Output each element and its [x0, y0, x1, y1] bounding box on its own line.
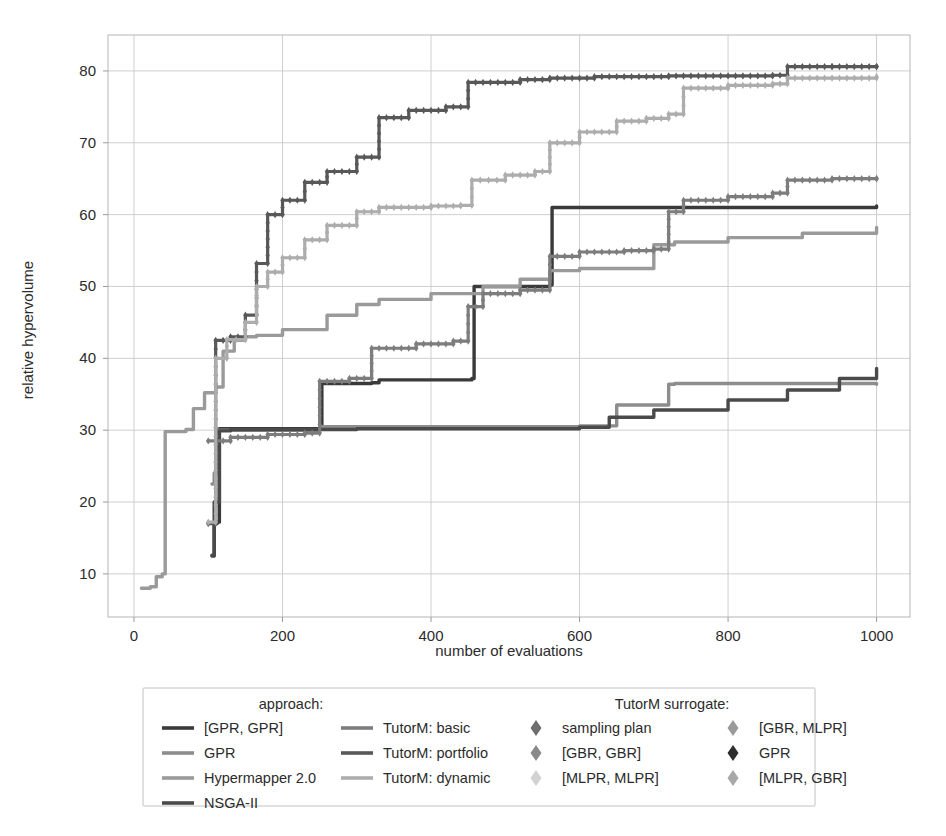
legend-item-label: GPR: [204, 745, 235, 761]
legend-item-label: TutorM: basic: [383, 720, 470, 736]
x-tick-label: 800: [716, 627, 741, 644]
x-tick-label: 200: [270, 627, 295, 644]
y-tick-label: 60: [79, 206, 96, 223]
legend-item-label: Hypermapper 2.0: [204, 770, 316, 786]
legend-item-label: [GPR, GPR]: [204, 720, 283, 736]
legend-title-approach: approach:: [259, 696, 324, 712]
legend-item-label: TutorM: dynamic: [383, 770, 490, 786]
legend-item-label: [MLPR, GBR]: [759, 770, 847, 786]
y-tick-label: 80: [79, 62, 96, 79]
y-tick-label: 50: [79, 277, 96, 294]
legend-item-label: [GBR, GBR]: [562, 745, 641, 761]
y-axis-title: relative hypervolume: [19, 261, 36, 399]
x-tick-label: 1000: [860, 627, 893, 644]
canvas-background: [0, 0, 946, 836]
y-tick-label: 40: [79, 349, 96, 366]
x-axis-title: number of evaluations: [435, 642, 583, 659]
legend-item-label: NSGA-II: [204, 795, 258, 811]
hypervolume-line-chart: 102030405060708002004006008001000 number…: [0, 0, 946, 836]
legend-item-label: sampling plan: [562, 720, 651, 736]
legend-item-label: [GBR, MLPR]: [759, 720, 847, 736]
legend-item-label: TutorM: portfolio: [383, 745, 488, 761]
figure-container: 102030405060708002004006008001000 number…: [0, 0, 946, 836]
legend-title-surrogate: TutorM surrogate:: [615, 696, 730, 712]
y-tick-label: 20: [79, 493, 96, 510]
y-tick-label: 30: [79, 421, 96, 438]
legend-item-label: GPR: [759, 745, 790, 761]
y-tick-label: 10: [79, 565, 96, 582]
x-tick-label: 0: [130, 627, 138, 644]
y-tick-label: 70: [79, 134, 96, 151]
legend-item-label: [MLPR, MLPR]: [562, 770, 659, 786]
